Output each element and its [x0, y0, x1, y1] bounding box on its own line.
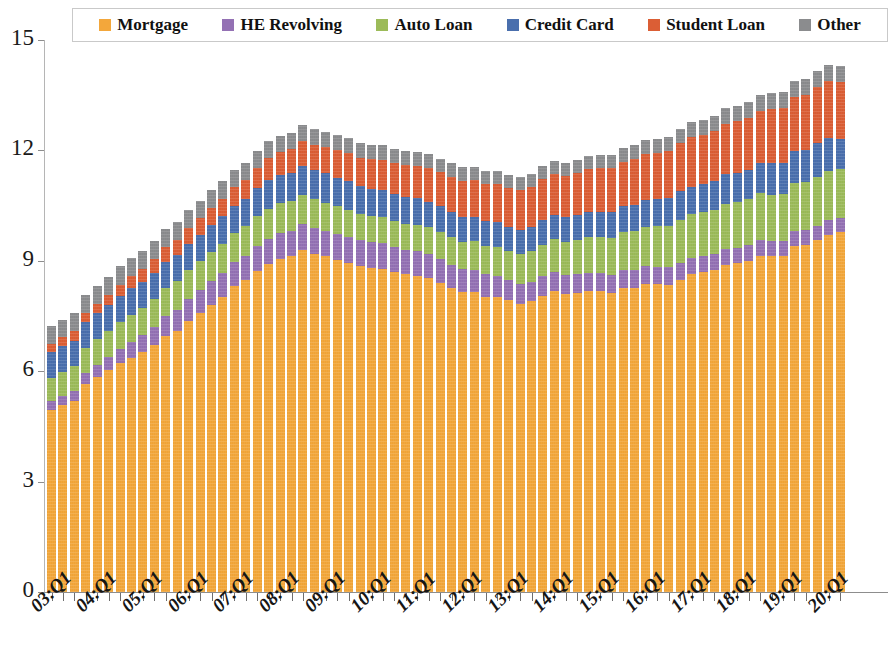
segment-auto-loan — [687, 214, 696, 257]
segment-he-revolving — [710, 254, 719, 270]
legend-item-mortgage[interactable]: Mortgage — [99, 15, 188, 35]
segment-he-revolving — [333, 234, 342, 260]
segment-auto-loan — [756, 193, 765, 240]
segment-student-loan — [767, 109, 776, 163]
segment-credit-card — [333, 178, 342, 207]
segment-other — [424, 154, 433, 168]
segment-credit-card — [436, 206, 445, 231]
legend-item-student-loan[interactable]: Student Loan — [648, 15, 765, 35]
segment-other — [516, 177, 525, 190]
bar-15:Q3 — [619, 148, 628, 592]
segment-he-revolving — [687, 258, 696, 275]
segment-student-loan — [801, 95, 810, 150]
segment-mortgage — [470, 292, 479, 592]
legend-label: Credit Card — [525, 15, 614, 35]
segment-he-revolving — [584, 273, 593, 292]
segment-other — [161, 229, 170, 247]
segment-student-loan — [207, 208, 216, 225]
segment-he-revolving — [630, 270, 639, 288]
segment-auto-loan — [630, 231, 639, 270]
segment-he-revolving — [104, 357, 113, 370]
bar-03:Q1 — [47, 326, 56, 592]
segment-mortgage — [241, 280, 250, 592]
segment-he-revolving — [447, 265, 456, 289]
segment-other — [127, 258, 136, 276]
segment-credit-card — [447, 212, 456, 238]
segment-credit-card — [470, 217, 479, 242]
segment-he-revolving — [378, 243, 387, 269]
segment-other — [721, 108, 730, 123]
segment-student-loan — [276, 152, 285, 174]
segment-auto-loan — [481, 246, 490, 275]
segment-he-revolving — [127, 342, 136, 358]
segment-credit-card — [676, 191, 685, 220]
segment-auto-loan — [470, 241, 479, 269]
segment-auto-loan — [607, 238, 616, 275]
segment-he-revolving — [150, 327, 159, 346]
segment-auto-loan — [241, 226, 250, 256]
legend-item-other[interactable]: Other — [799, 15, 860, 35]
legend-swatch-icon — [648, 19, 660, 31]
segment-credit-card — [241, 199, 250, 226]
segment-other — [173, 222, 182, 240]
segment-auto-loan — [561, 242, 570, 275]
segment-he-revolving — [356, 240, 365, 266]
segment-other — [779, 92, 788, 107]
segment-mortgage — [573, 293, 582, 592]
segment-he-revolving — [699, 256, 708, 273]
segment-student-loan — [356, 158, 365, 186]
bar-18:Q4 — [767, 93, 776, 592]
segment-student-loan — [630, 159, 639, 204]
segment-credit-card — [58, 346, 67, 371]
segment-mortgage — [298, 250, 307, 592]
segment-auto-loan — [93, 339, 102, 365]
segment-mortgage — [264, 264, 273, 592]
segment-student-loan — [561, 176, 570, 217]
segment-he-revolving — [310, 228, 319, 253]
segment-student-loan — [584, 169, 593, 212]
segment-auto-loan — [70, 366, 79, 391]
segment-student-loan — [756, 111, 765, 163]
legend-item-credit-card[interactable]: Credit Card — [507, 15, 614, 35]
segment-mortgage — [424, 278, 433, 592]
legend-item-auto-loan[interactable]: Auto Loan — [376, 15, 472, 35]
segment-student-loan — [436, 172, 445, 207]
segment-he-revolving — [276, 233, 285, 259]
segment-credit-card — [127, 288, 136, 314]
segment-auto-loan — [81, 348, 90, 373]
segment-other — [116, 266, 125, 284]
segment-mortgage — [127, 358, 136, 592]
segment-other — [367, 145, 376, 159]
segment-other — [733, 106, 742, 121]
segment-auto-loan — [836, 169, 845, 218]
segment-mortgage — [801, 245, 810, 592]
segment-he-revolving — [264, 239, 273, 264]
segment-credit-card — [699, 184, 708, 212]
segment-mortgage — [287, 256, 296, 592]
segment-he-revolving — [767, 241, 776, 256]
segment-student-loan — [481, 184, 490, 222]
segment-auto-loan — [744, 199, 753, 245]
segment-he-revolving — [470, 270, 479, 292]
legend-item-he-revolving[interactable]: HE Revolving — [222, 15, 342, 35]
segment-he-revolving — [173, 310, 182, 331]
bar-20:Q1 — [824, 65, 833, 592]
segment-mortgage — [744, 261, 753, 592]
segment-student-loan — [116, 285, 125, 296]
segment-credit-card — [687, 187, 696, 215]
bar-19:Q3 — [801, 79, 810, 592]
segment-student-loan — [253, 168, 262, 189]
bar-05:Q4 — [173, 222, 182, 592]
bar-11:Q2 — [424, 154, 433, 592]
segment-auto-loan — [344, 210, 353, 238]
bar-08:Q4 — [310, 129, 319, 592]
segment-he-revolving — [538, 276, 547, 296]
segment-credit-card — [344, 181, 353, 209]
segment-other — [836, 66, 845, 82]
segment-auto-loan — [447, 237, 456, 265]
stacked-bar-chart: MortgageHE RevolvingAuto LoanCredit Card… — [0, 0, 896, 655]
segment-student-loan — [333, 150, 342, 177]
segment-auto-loan — [584, 237, 593, 272]
bar-13:Q2 — [516, 177, 525, 592]
segment-student-loan — [344, 153, 353, 181]
